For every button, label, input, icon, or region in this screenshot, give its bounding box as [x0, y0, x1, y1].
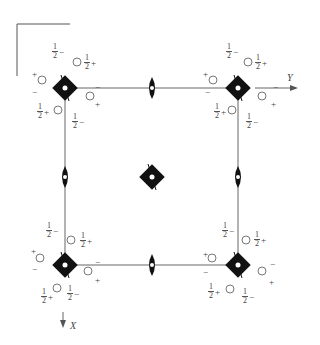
- rotoinversion-icon: [52, 75, 77, 101]
- two-fold-axis-icon: [149, 254, 155, 276]
- fraction-label: 12−: [226, 43, 238, 60]
- sign-label: −: [273, 83, 278, 92]
- sign-label: +: [31, 247, 36, 256]
- sign-label: −: [95, 258, 100, 267]
- sign-label: +: [203, 70, 208, 79]
- y-axis-arrow-icon: [290, 85, 298, 91]
- rotoinversion-icon: [139, 164, 164, 190]
- sign-label: +: [203, 250, 208, 259]
- two-fold-axis-icon: [62, 166, 68, 188]
- rotoinversion-icon: [225, 75, 250, 101]
- sign-label: −: [32, 88, 37, 97]
- fraction-label: 12+: [254, 231, 266, 248]
- fraction-label: 12−: [222, 222, 234, 239]
- sign-label: −: [203, 268, 208, 277]
- sign-label: −: [32, 265, 37, 274]
- fraction-label: 12+: [37, 103, 49, 120]
- fraction-label: 12+: [84, 54, 96, 71]
- sign-label: +: [271, 100, 276, 109]
- rotoinversion-icon: [52, 252, 77, 278]
- rotoinversion-icon: [225, 252, 250, 278]
- x-axis-arrow-icon: [60, 320, 66, 328]
- two-fold-axis-icon: [149, 77, 155, 99]
- sign-label: −: [270, 260, 275, 269]
- fraction-label: 12+: [80, 232, 92, 249]
- sign-label: +: [269, 278, 274, 287]
- fraction-label: 12+: [214, 103, 226, 120]
- fraction-label: 12−: [242, 288, 254, 305]
- sign-label: +: [95, 276, 100, 285]
- y-axis-label: Y: [287, 72, 293, 83]
- fraction-label: 12−: [52, 43, 64, 60]
- x-axis-label: X: [70, 320, 76, 331]
- sign-label: +: [95, 100, 100, 109]
- fraction-label: 12+: [255, 54, 267, 71]
- sign-label: +: [32, 70, 37, 79]
- fraction-label: 12−: [46, 222, 58, 239]
- fraction-label: 12−: [72, 113, 84, 130]
- sign-label: −: [205, 88, 210, 97]
- fraction-label: 12+: [41, 288, 53, 305]
- sign-label: −: [95, 83, 100, 92]
- fraction-label: 12+: [208, 283, 220, 300]
- fraction-label: 12−: [67, 285, 79, 302]
- fraction-label: 12−: [246, 113, 258, 130]
- two-fold-axis-icon: [235, 166, 241, 188]
